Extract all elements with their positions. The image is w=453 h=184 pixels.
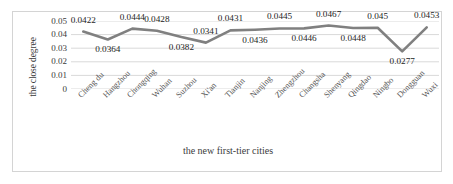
- data-point-label: 0.0422: [71, 16, 96, 25]
- data-point-label: 0.0446: [291, 34, 316, 43]
- y-axis-tick-label: 0.01: [41, 71, 67, 80]
- data-point-label: 0.0277: [390, 57, 415, 66]
- y-axis-title: the close degree: [28, 19, 38, 115]
- y-axis-tick-label: 0: [41, 85, 67, 94]
- data-point-label: 0.0382: [169, 43, 194, 52]
- x-axis-title: the new first-tier cities: [13, 145, 443, 156]
- chart-plot-frame: the close degree 0.050.040.030.020.010 0…: [12, 11, 442, 172]
- data-point-label: 0.0467: [316, 10, 341, 19]
- data-point-label: 0.0428: [144, 15, 169, 24]
- chart-figure: the close degree 0.050.040.030.020.010 0…: [0, 0, 453, 184]
- y-axis-tick-label: 0.02: [41, 57, 67, 66]
- data-point-label: 0.0364: [95, 45, 120, 54]
- data-point-label: 0.0444: [120, 13, 145, 22]
- y-axis-tick-label: 0.04: [41, 30, 67, 39]
- data-point-label: 0.0445: [267, 12, 292, 21]
- data-point-label: 0.0436: [242, 36, 267, 45]
- data-point-label: 0.0448: [340, 34, 365, 43]
- data-point-label: 0.0341: [193, 27, 218, 36]
- y-axis-tick-label: 0.05: [41, 17, 67, 26]
- data-point-label: 0.045: [367, 12, 388, 21]
- y-axis-tick-label: 0.03: [41, 44, 67, 53]
- data-point-label: 0.0453: [414, 11, 439, 20]
- data-point-label: 0.0431: [218, 14, 243, 23]
